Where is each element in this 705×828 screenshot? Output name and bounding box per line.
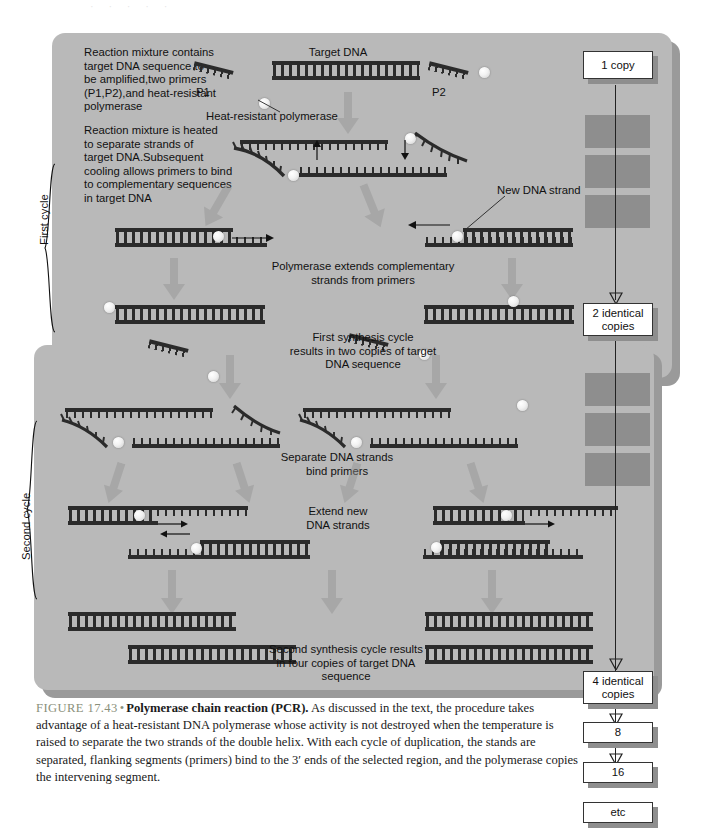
process-arrow-down — [218, 355, 242, 399]
polymerase-bead — [431, 542, 442, 553]
first-cycle-brace — [44, 163, 56, 333]
process-arrow-down — [500, 258, 524, 300]
target-dna-duplex — [272, 61, 420, 80]
polymerase-bead — [113, 437, 124, 448]
step-separate-text: Separate DNA strands bind primers — [257, 451, 417, 478]
template-strand — [433, 506, 618, 516]
process-arrow-down — [160, 570, 184, 614]
final-duplex — [425, 612, 593, 631]
figure-caption: FIGURE 17.43•Polymerase chain reaction (… — [36, 700, 581, 786]
polymerase-bead — [288, 170, 299, 181]
ladder-block — [585, 413, 650, 446]
separated-strand — [65, 408, 213, 418]
product-duplex-left — [115, 305, 265, 324]
second-cycle-brace — [26, 420, 38, 600]
copy-count-box-8: 8 — [583, 722, 653, 743]
primer-p2-label: P2 — [432, 86, 446, 100]
copy-count-box-2: 2 identical copies — [583, 303, 653, 336]
polymerase-bead — [134, 510, 145, 521]
separated-strand — [303, 408, 451, 418]
primer-binding — [60, 418, 110, 450]
process-arrow-down — [480, 570, 504, 614]
extension-direction-arrow-left — [408, 219, 450, 231]
primer-p1-label: P1 — [196, 86, 210, 100]
separated-strand — [370, 438, 518, 448]
template-strand — [68, 506, 248, 516]
step-reaction-mixture-text: Reaction mixture contains target DNA seq… — [84, 46, 264, 114]
pcr-figure: First cycle Second cycle Reaction mixtur… — [0, 0, 705, 700]
primer-binding — [232, 404, 282, 436]
copy-count-box-16: 16 — [583, 762, 653, 783]
step-extend-new-text: Extend new DNA strands — [278, 505, 398, 532]
target-dna-label: Target DNA — [283, 46, 393, 60]
process-arrow-down — [320, 570, 344, 614]
primer-binding-right — [413, 131, 469, 165]
ladder-block — [585, 195, 650, 228]
ladder-connector — [615, 85, 616, 300]
extension-direction-arrow-right — [525, 519, 555, 529]
final-duplex — [425, 645, 593, 664]
polymerase-bead — [501, 510, 512, 521]
polymerase-bead — [191, 543, 202, 554]
step-second-result-text: Second synthesis cycle results in four c… — [266, 643, 426, 684]
ladder-arrowhead — [609, 658, 623, 670]
new-strand-leader-line — [465, 196, 507, 232]
ladder-block — [585, 155, 650, 188]
template-strand-right — [425, 237, 573, 247]
polymerase-bead — [104, 302, 115, 313]
new-dna-strand-label: New DNA strand — [497, 184, 581, 198]
polymerase-bead — [508, 296, 519, 307]
anneal-arrow-down — [400, 140, 410, 160]
ladder-block — [585, 115, 650, 148]
separated-strand-bottom — [299, 167, 447, 177]
anneal-arrow-up — [312, 140, 322, 160]
ladder-connector — [615, 330, 616, 680]
final-duplex — [68, 612, 236, 631]
polymerase-bead — [351, 437, 362, 448]
polymerase-bead — [213, 231, 224, 242]
primer-binding-left — [232, 145, 288, 179]
template-strand — [423, 549, 583, 559]
extension-direction-arrow-right — [232, 232, 274, 244]
polymerase-label: Heat-resistant polymerase — [206, 110, 338, 124]
extension-direction-arrow-left — [160, 529, 190, 539]
primer-binding — [298, 418, 348, 450]
product-duplex-right — [424, 305, 574, 324]
ladder-block — [585, 373, 650, 406]
separated-strand — [132, 438, 280, 448]
polymerase-bead — [452, 231, 463, 242]
polymerase-bead — [517, 400, 528, 411]
caption-bullet: • — [118, 701, 126, 715]
process-arrow-down — [162, 258, 186, 300]
ladder-block — [585, 453, 650, 486]
copy-count-box-4: 4 identical copies — [583, 671, 653, 704]
process-arrow-down — [336, 92, 360, 134]
step-extend-text: Polymerase extends complementary strands… — [253, 260, 473, 287]
template-strand — [128, 549, 310, 559]
extension-direction-arrow-right — [158, 519, 188, 529]
figure-title: Polymerase chain reaction (PCR). — [126, 701, 308, 715]
copy-count-box-1: 1 copy — [583, 51, 653, 79]
figure-number: FIGURE 17.43 — [36, 701, 118, 715]
process-arrow-down — [424, 355, 448, 399]
polymerase-bead — [479, 67, 490, 78]
copy-count-box-etc: etc — [583, 802, 653, 823]
